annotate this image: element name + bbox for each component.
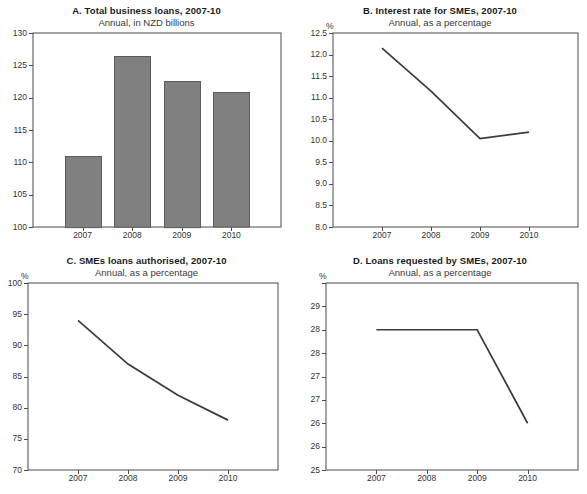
panel-b-ytick-label: 8.0 <box>297 223 327 232</box>
panel-c-xtick-label: 2008 <box>106 474 150 483</box>
panel-a-ytick-label: 125 <box>0 61 27 70</box>
panel-a-plot-area: 1001051101151201251302007200820092010 <box>0 0 293 250</box>
panel-b-unit-label: % <box>326 22 334 31</box>
panel-a-ytick-label: 120 <box>0 93 27 102</box>
panel-b-ytick-label: 11.0 <box>297 93 327 102</box>
panel-d-ytick-label: 26 <box>290 419 320 428</box>
panel-d-xtick-label: 2010 <box>506 474 550 483</box>
panel-a-ytick-label: 100 <box>0 223 27 232</box>
panel-d-ytick-label: 27 <box>290 372 320 381</box>
panel-b-ytick-label: 12.5 <box>297 29 327 38</box>
panel-c-ytick-label: 75 <box>0 434 22 443</box>
panel-d-unit-label: % <box>319 272 327 281</box>
figure-canvas: A. Total business loans, 2007-10 Annual,… <box>0 0 587 494</box>
panel-d-plot-area: 25262627272828292007200820092010% <box>293 250 587 494</box>
panel-b-xtick-label: 2009 <box>458 231 502 240</box>
panel-d-xtick-label: 2007 <box>354 474 398 483</box>
panel-c-xtick-label: 2010 <box>206 474 250 483</box>
panel-c-xtick-label: 2007 <box>56 474 100 483</box>
panel-a-ytick-label: 130 <box>0 29 27 38</box>
panel-d-ytick-label: 25 <box>290 466 320 475</box>
panel-c-ytick-label: 80 <box>0 403 22 412</box>
panel-d-ytick-label: 29 <box>290 302 320 311</box>
panel-b-ytick-label: 10.0 <box>297 136 327 145</box>
panel-d-xtick-label: 2008 <box>405 474 449 483</box>
panel-b-ytick-label: 9.0 <box>297 179 327 188</box>
chart-panel-c: C. SMEs loans authorised, 2007-10 Annual… <box>0 250 293 494</box>
panel-c-ytick-label: 85 <box>0 372 22 381</box>
panel-d-ytick-label: 27 <box>290 395 320 404</box>
panel-a-xtick-label: 2010 <box>209 231 253 240</box>
panel-a-ytick-label: 115 <box>0 126 27 135</box>
panel-a-ytick-label: 110 <box>0 158 27 167</box>
panel-c-ytick-label: 95 <box>0 310 22 319</box>
panel-b-xtick-label: 2010 <box>507 231 551 240</box>
panel-c-xtick-label: 2009 <box>156 474 200 483</box>
panel-b-svg <box>293 0 587 250</box>
panel-c-unit-label: % <box>21 272 29 281</box>
panel-a-xtick-label: 2008 <box>110 231 154 240</box>
panel-c-ytick-label: 90 <box>0 341 22 350</box>
panel-b-ytick-label: 9.5 <box>297 158 327 167</box>
panel-a-xtick-label: 2007 <box>61 231 105 240</box>
panel-b-ytick-label: 8.5 <box>297 201 327 210</box>
panel-d-ytick-label: 28 <box>290 325 320 334</box>
panel-b-xtick-label: 2007 <box>360 231 404 240</box>
panel-a-xtick-label: 2009 <box>160 231 204 240</box>
panel-b-plot-area: 8.08.59.09.510.010.511.011.512.012.52007… <box>293 0 587 250</box>
panel-c-svg <box>0 250 293 494</box>
panel-b-xtick-label: 2008 <box>409 231 453 240</box>
panel-c-ytick-label: 70 <box>0 466 22 475</box>
panel-c-plot-area: 7075808590951002007200820092010% <box>0 250 293 494</box>
chart-panel-d: D. Loans requested by SMEs, 2007-10 Annu… <box>293 250 587 494</box>
chart-panel-b: B. Interest rate for SMEs, 2007-10 Annua… <box>293 0 587 250</box>
chart-panel-a: A. Total business loans, 2007-10 Annual,… <box>0 0 293 250</box>
panel-d-ytick-label: 26 <box>290 442 320 451</box>
panel-b-ytick-label: 11.5 <box>297 72 327 81</box>
panel-d-svg <box>293 250 587 494</box>
panel-a-ytick-label: 105 <box>0 190 27 199</box>
panel-d-ytick-label: 28 <box>290 349 320 358</box>
panel-b-ytick-label: 10.5 <box>297 115 327 124</box>
panel-a-svg <box>0 0 293 250</box>
panel-b-ytick-label: 12.0 <box>297 50 327 59</box>
panel-c-ytick-label: 100 <box>0 279 22 288</box>
panel-d-xtick-label: 2009 <box>455 474 499 483</box>
